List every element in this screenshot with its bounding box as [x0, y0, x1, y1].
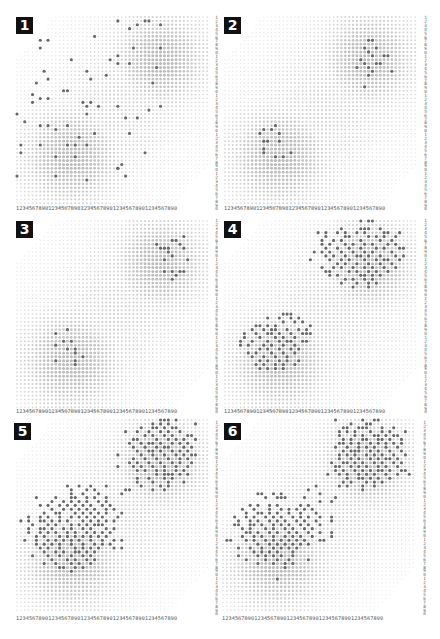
- panel-4-plot: [220, 215, 440, 415]
- panel-6: 6 12345678901234567890123456789012345678…: [220, 415, 440, 639]
- panel-3-y-axis-labels: 1234567890123456789012345678901234567890…: [214, 219, 219, 414]
- panel-2-plot: [220, 0, 440, 215]
- panel-1-x-axis-labels: 1234567890123456789012345678901234567890…: [16, 205, 177, 211]
- panel-1-y-axis-labels: 1234567890123456789012345678901234567890…: [214, 16, 219, 211]
- panel-6-badge: 6: [224, 423, 241, 440]
- panel-3: 3 12345678901234567890123456789012345678…: [0, 215, 220, 415]
- panel-1: 1 12345678901234567890123456789012345678…: [0, 0, 220, 215]
- panel-2-y-axis-labels: 1234567890123456789012345678901234567890…: [423, 16, 428, 211]
- panel-4-badge: 4: [224, 221, 241, 238]
- panel-3-x-axis-labels: 1234567890123456789012345678901234567890…: [16, 408, 177, 414]
- panel-5-badge: 5: [14, 423, 31, 440]
- panel-3-plot: [0, 215, 220, 415]
- panel-2-badge: 2: [224, 17, 241, 34]
- panel-4-x-axis-labels: 1234567890123456789012345678901234567890…: [224, 408, 385, 414]
- panel-1-badge: 1: [16, 17, 33, 34]
- panel-5: 5 12345678901234567890123456789012345678…: [0, 415, 220, 639]
- panel-5-plot: [0, 415, 220, 639]
- panel-2: 2 12345678901234567890123456789012345678…: [220, 0, 440, 215]
- sample-points: [19, 418, 197, 572]
- panel-1-plot: [0, 0, 220, 215]
- panel-6-y-axis-labels: 1234567890123456789012345678901234567890…: [422, 421, 427, 616]
- panel-4-y-axis-labels: 1234567890123456789012345678901234567890…: [423, 219, 428, 414]
- panel-5-y-axis-labels: 1234567890123456789012345678901234567890…: [214, 421, 219, 616]
- panel-6-x-axis-labels: 1234567890123456789012345678901234567890…: [222, 615, 383, 621]
- panel-2-x-axis-labels: 1234567890123456789012345678901234567890…: [224, 205, 385, 211]
- panel-4: 4 12345678901234567890123456789012345678…: [220, 215, 440, 415]
- panel-6-plot: [220, 415, 440, 639]
- panel-3-badge: 3: [16, 221, 33, 238]
- panel-5-x-axis-labels: 1234567890123456789012345678901234567890…: [16, 615, 177, 621]
